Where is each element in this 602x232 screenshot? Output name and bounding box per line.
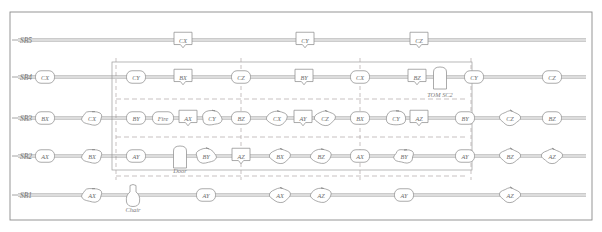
node-SB4-CZ-11-label: CZ [548, 74, 556, 81]
node-SB3-CZ-26-label: CZ [506, 115, 514, 122]
node-SB3-BX-12-label: BX [41, 115, 49, 122]
node-SB4-CX-8-label: CX [356, 74, 364, 81]
node-SB2-AX-28-label: AX [41, 153, 49, 160]
node-SB3-CX-13-label: CX [88, 115, 96, 122]
node-SB1-AZ-45-label: AZ [506, 192, 513, 199]
tom-sc2-arch[interactable] [434, 67, 447, 89]
node-SB3-CZ-21-label: CZ [321, 115, 329, 122]
node-SB2-BY-36-label: BY [400, 153, 407, 160]
node-SB2-BY-31-label: BY [202, 153, 209, 160]
annotation-door: Door [173, 167, 187, 174]
node-SB2-BZ-34-label: BZ [317, 153, 324, 160]
node-SB4-BZ-9-label: BZ [413, 74, 420, 81]
node-SB3-CY-17-label: CY [208, 115, 216, 122]
door-arch[interactable] [174, 146, 187, 168]
node-SB4-BY-7-label: BY [300, 74, 307, 81]
chair-vase[interactable] [126, 185, 139, 207]
node-SB4-CY-10-label: CY [470, 74, 478, 81]
diagram-canvas: SB5SB4SB3SB2SB1CXCYCZCXCYBXCZBYCXBZCYCZB… [0, 0, 602, 232]
node-SB2-AY-30-label: AY [133, 153, 140, 160]
node-SB3-BZ-27-label: BZ [548, 115, 555, 122]
node-SB2-BZ-38-label: BZ [506, 153, 513, 160]
node-SB3-AY-20-label: AY [300, 115, 307, 122]
row-label-SB2: SB2 [20, 152, 32, 161]
node-SB3-BY-25-label: BY [461, 115, 468, 122]
node-SB5-CX-0-label: CX [179, 37, 187, 44]
node-SB4-CZ-6-label: CZ [237, 74, 245, 81]
row-label-SB4: SB4 [20, 73, 32, 82]
node-SB1-AX-40-label: AX [88, 192, 96, 199]
node-SB3-BZ-18-label: BZ [237, 115, 244, 122]
annotation-chair: Chair [126, 206, 141, 213]
row-label-SB3: SB3 [20, 114, 32, 123]
node-SB4-CY-4-label: CY [132, 74, 140, 81]
node-SB3-CY-23-label: CY [392, 115, 400, 122]
node-SB1-AY-41-label: AY [203, 192, 210, 199]
node-SB2-BX-29-label: BX [88, 153, 96, 160]
node-SB2-AZ-32-label: AZ [237, 153, 244, 160]
row-label-SB1: SB1 [20, 191, 32, 200]
node-SB1-AX-42-label: AX [276, 192, 284, 199]
node-SB3-AZ-24-label: AZ [415, 115, 422, 122]
node-SB2-AZ-39-label: AZ [548, 153, 555, 160]
node-SB3-Fire-15-label: Fire [158, 115, 168, 122]
node-SB2-BX-33-label: BX [276, 153, 284, 160]
node-SB3-AX-16-label: AX [184, 115, 192, 122]
node-SB5-CZ-2-label: CZ [415, 37, 423, 44]
node-SB5-CY-1-label: CY [301, 37, 309, 44]
annotation-tom-sc2: TOM SC2 [427, 91, 453, 98]
node-SB2-AY-37-label: AY [462, 153, 469, 160]
node-SB1-AY-44-label: AY [401, 192, 408, 199]
node-SB4-BX-5-label: BX [179, 74, 187, 81]
node-SB1-AZ-43-label: AZ [317, 192, 324, 199]
node-SB3-CX-19-label: CX [273, 115, 281, 122]
node-SB3-BY-14-label: BY [132, 115, 139, 122]
row-label-SB5: SB5 [20, 36, 32, 45]
node-SB2-AX-35-label: AX [356, 153, 364, 160]
node-SB3-BX-22-label: BX [356, 115, 364, 122]
node-SB4-CX-3-label: CX [41, 74, 49, 81]
